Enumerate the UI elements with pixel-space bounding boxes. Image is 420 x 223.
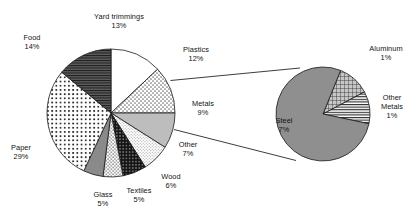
label-food: Food 14% xyxy=(23,33,40,51)
label-paper-name: Paper xyxy=(11,143,31,152)
label-metals: Metals 9% xyxy=(192,99,214,117)
label-other-percent: 7% xyxy=(179,149,198,158)
label-other: Other 7% xyxy=(179,140,198,158)
label-plastics-name: Plastics xyxy=(183,45,209,54)
label-steel-percent: 7% xyxy=(275,125,292,134)
label-steel: Steel 7% xyxy=(275,116,292,134)
label-metals-name: Metals xyxy=(192,99,214,108)
label-textiles-name: Textiles xyxy=(126,186,151,195)
label-glass-percent: 5% xyxy=(93,199,112,208)
label-paper: Paper 29% xyxy=(11,143,31,161)
pie-chart-figure: Yard trimmings 13% Food 14% Plastics 12%… xyxy=(0,0,420,223)
label-aluminum: Aluminum 1% xyxy=(369,44,402,62)
label-wood-name: Wood xyxy=(161,172,180,181)
label-yard-trimmings-name: Yard trimmings xyxy=(94,12,144,21)
label-other-metals-name-line2: Metals xyxy=(381,102,403,111)
label-other-metals: Other Metals 1% xyxy=(381,93,403,121)
label-plastics: Plastics 12% xyxy=(183,45,209,63)
label-textiles-percent: 5% xyxy=(126,195,151,204)
label-paper-percent: 29% xyxy=(11,152,31,161)
label-glass: Glass 5% xyxy=(93,190,112,208)
label-aluminum-percent: 1% xyxy=(369,53,402,62)
label-food-percent: 14% xyxy=(23,42,40,51)
label-food-name: Food xyxy=(23,33,40,42)
label-wood: Wood 6% xyxy=(161,172,180,190)
label-wood-percent: 6% xyxy=(161,181,180,190)
callout-line-upper xyxy=(171,68,301,81)
label-yard-trimmings-percent: 13% xyxy=(94,21,144,30)
label-aluminum-name: Aluminum xyxy=(369,44,402,53)
label-other-name: Other xyxy=(179,140,198,149)
label-metals-percent: 9% xyxy=(192,108,214,117)
detail-pie-group xyxy=(276,67,370,161)
label-yard-trimmings: Yard trimmings 13% xyxy=(94,12,144,30)
label-steel-name: Steel xyxy=(275,116,292,125)
label-other-metals-name-line1: Other xyxy=(381,93,403,102)
label-glass-name: Glass xyxy=(93,190,112,199)
label-plastics-percent: 12% xyxy=(183,54,209,63)
label-other-metals-percent: 1% xyxy=(381,111,403,120)
main-pie-group xyxy=(47,49,175,177)
label-textiles: Textiles 5% xyxy=(126,186,151,204)
